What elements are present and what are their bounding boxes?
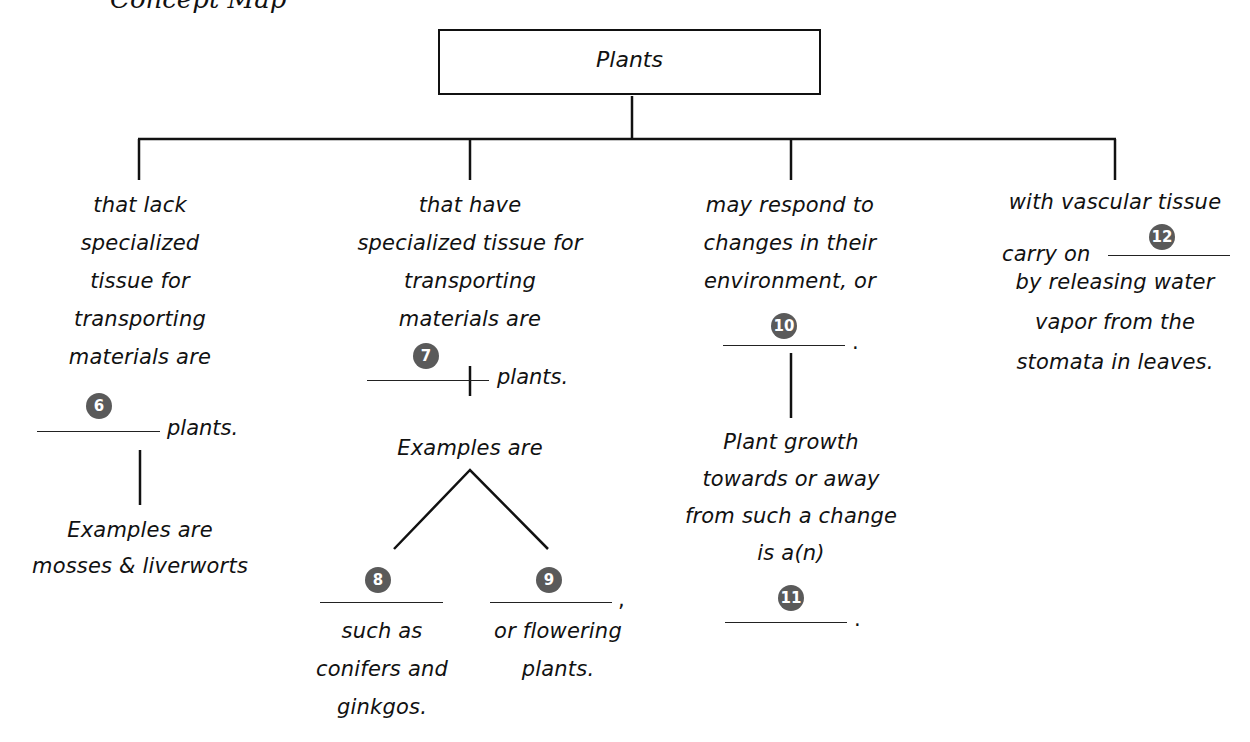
text-line: from such a change [660,498,922,535]
blank-11-suffix: . [854,607,861,631]
text-line: Plant growth [660,424,922,461]
text-line: changes in their [670,224,910,262]
blank-number-badge-8: 8 [365,567,391,593]
answer-blank-8[interactable] [320,602,443,603]
blank-number-badge-9: 9 [536,567,562,593]
branch-3-text: may respond to changes in their environm… [670,186,910,300]
text-line: that have [340,186,600,224]
text-line: specialized [40,224,240,262]
text-line: environment, or [670,262,910,300]
blank-number-badge-7: 7 [413,343,439,369]
text-line: transporting [340,262,600,300]
text-line: that lack [40,186,240,224]
answer-blank-12[interactable] [1108,255,1230,256]
text-line: stomata in leaves. [995,342,1235,382]
answer-blank-7[interactable] [367,380,489,381]
text-line: plants. [478,650,638,688]
blank-number-badge-11: 11 [778,585,804,611]
blank-number-badge-12: 12 [1149,224,1175,250]
cutoff-heading: Concept Map [110,0,286,14]
blank-7-suffix: plants. [497,365,568,389]
text-line: ginkgos. [302,688,462,726]
answer-blank-9[interactable] [490,602,612,603]
branch-2-child-9-text: or flowering plants. [478,612,638,688]
blank-10-suffix: . [852,330,859,354]
text-line: transporting [40,300,240,338]
branch-2-text: that have specialized tissue for transpo… [340,186,600,338]
text-line: is a(n) [660,535,922,572]
text-line: Examples are [20,512,260,548]
text-line: materials are [340,300,600,338]
text-line: specialized tissue for [340,224,600,262]
blank-9-suffix: , [618,588,625,612]
text-line: vapor from the [995,302,1235,342]
branch-4-line-1: with vascular tissue [995,186,1235,218]
text-line: tissue for [40,262,240,300]
branch-1-text: that lack specialized tissue for transpo… [40,186,240,376]
text-line: such as [302,612,462,650]
answer-blank-10[interactable] [723,345,845,346]
blank-number-badge-10: 10 [771,313,797,339]
branch-2-examples-intro: Examples are [370,432,570,464]
root-node: Plants [438,29,821,95]
text-line: towards or away [660,461,922,498]
branch-2-child-8-text: such as conifers and ginkgos. [302,612,462,726]
text-line: conifers and [302,650,462,688]
text-line: by releasing water [995,262,1235,302]
text-line: may respond to [670,186,910,224]
branch-3-sub-text: Plant growth towards or away from such a… [660,424,922,572]
text-line: mosses & liverworts [20,548,260,584]
text-line: or flowering [478,612,638,650]
branch-4-rest: by releasing water vapor from the stomat… [995,262,1235,382]
answer-blank-11[interactable] [725,622,847,623]
blank-number-badge-6: 6 [86,393,112,419]
text-line: materials are [40,338,240,376]
root-label: Plants [440,47,819,72]
blank-6-suffix: plants. [167,416,238,440]
branch-1-examples: Examples are mosses & liverworts [20,512,260,584]
answer-blank-6[interactable] [37,431,160,432]
